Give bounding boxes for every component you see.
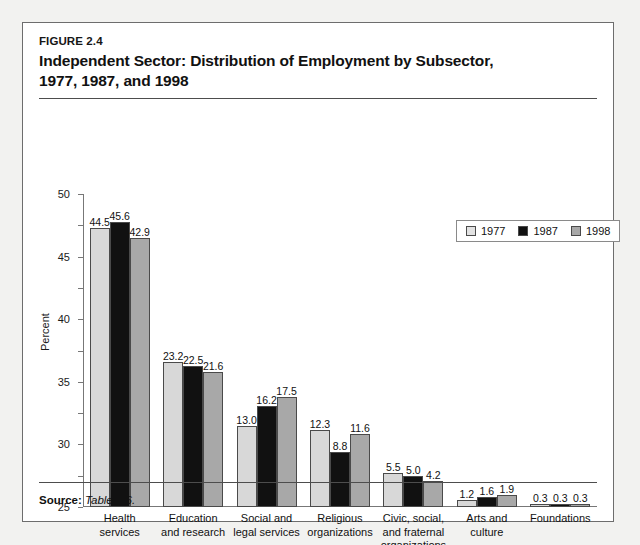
bar[interactable]: 12.3 <box>310 430 330 507</box>
bar-value-label: 11.6 <box>350 422 370 434</box>
legend-label: 1977 <box>481 225 505 237</box>
legend-item[interactable]: 1977 <box>466 225 505 237</box>
bar-group-bars: 44.545.642.9 <box>83 194 156 507</box>
source-label: Source: <box>39 494 82 506</box>
bar-value-label: 16.2 <box>256 394 276 406</box>
legend-label: 1998 <box>586 225 610 237</box>
chart-legend: 197719871998 <box>456 220 620 242</box>
bar-value-label: 44.5 <box>89 216 109 228</box>
bar[interactable]: 42.9 <box>130 238 150 507</box>
bar[interactable]: 5.5 <box>383 473 403 507</box>
y-axis-tick: 0 <box>78 507 83 508</box>
bar[interactable]: 0.3 <box>550 504 570 507</box>
bar[interactable]: 45.6 <box>110 222 130 507</box>
bar[interactable]: 11.6 <box>350 434 370 507</box>
legend-label: 1987 <box>533 225 557 237</box>
bar[interactable]: 0.3 <box>570 504 590 507</box>
bar[interactable]: 5.0 <box>403 476 423 507</box>
bar-value-label: 12.3 <box>310 418 330 430</box>
bar[interactable]: 8.8 <box>330 452 350 507</box>
bar[interactable]: 21.6 <box>203 372 223 507</box>
bar[interactable]: 13.0 <box>237 426 257 507</box>
figure-number: FIGURE 2.4 <box>39 34 597 49</box>
figure-title: Independent Sector: Distribution of Empl… <box>39 51 597 90</box>
bar-value-label: 21.6 <box>203 360 223 372</box>
bar[interactable]: 22.5 <box>183 366 203 507</box>
legend-swatch-icon <box>571 226 581 236</box>
bar-value-label: 5.0 <box>406 464 421 476</box>
bar[interactable]: 1.9 <box>497 495 517 507</box>
y-axis-title: Percent <box>39 313 51 351</box>
bar-value-label: 45.6 <box>109 210 129 222</box>
x-axis-category-label: Foundations <box>512 512 608 526</box>
bar-value-label: 4.2 <box>426 469 441 481</box>
bar-group-bars: 5.55.04.2 <box>377 194 450 507</box>
bar-value-label: 8.8 <box>333 440 348 452</box>
bar[interactable]: 17.5 <box>277 397 297 507</box>
chart-area: Percent 05101520253035404550 44.545.642.… <box>23 99 615 499</box>
bar-value-label: 17.5 <box>276 385 296 397</box>
bar[interactable]: 44.5 <box>90 228 110 507</box>
bar-value-label: 42.9 <box>129 226 149 238</box>
bar-value-label: 1.2 <box>460 488 475 500</box>
bar-group: 23.222.521.6Education and research <box>156 194 229 507</box>
bar-value-label: 23.2 <box>163 350 183 362</box>
bar-value-label: 5.5 <box>386 461 401 473</box>
bar-value-label: 0.3 <box>533 492 548 504</box>
bar-value-label: 22.5 <box>183 354 203 366</box>
bar[interactable]: 16.2 <box>257 406 277 507</box>
legend-swatch-icon <box>466 226 476 236</box>
bar[interactable]: 1.2 <box>457 500 477 508</box>
bar[interactable]: 1.6 <box>477 497 497 507</box>
y-axis-tick-label: 50 <box>58 188 70 200</box>
bar-group: 44.545.642.9Health services <box>83 194 156 507</box>
bar-group-bars: 12.38.811.6 <box>303 194 376 507</box>
bar-group-bars: 23.222.521.6 <box>156 194 229 507</box>
bar[interactable]: 23.2 <box>163 362 183 507</box>
source-note: Source: Table 2.6. <box>39 494 135 506</box>
figure-header: FIGURE 2.4 Independent Sector: Distribut… <box>23 23 613 90</box>
bar-value-label: 13.0 <box>236 414 256 426</box>
bar-value-label: 1.9 <box>500 483 515 495</box>
bar-group: 5.55.04.2Civic, social, and fraternal or… <box>377 194 450 507</box>
y-axis-tick-label: 35 <box>58 376 70 388</box>
bar-group: 13.016.217.5Social and legal services <box>230 194 303 507</box>
footer-divider <box>39 482 597 483</box>
legend-item[interactable]: 1987 <box>518 225 557 237</box>
bar-value-label: 0.3 <box>573 492 588 504</box>
bar-value-label: 0.3 <box>553 492 568 504</box>
bar-group: 12.38.811.6Religious organizations <box>303 194 376 507</box>
bar[interactable]: 4.2 <box>423 481 443 507</box>
bar[interactable]: 0.3 <box>530 504 550 507</box>
legend-item[interactable]: 1998 <box>571 225 610 237</box>
legend-swatch-icon <box>518 226 528 236</box>
y-axis-tick-label: 40 <box>58 313 70 325</box>
y-axis-tick-label: 30 <box>58 438 70 450</box>
bar-value-label: 1.6 <box>480 485 495 497</box>
y-axis-tick-label: 45 <box>58 251 70 263</box>
bar-group-bars: 13.016.217.5 <box>230 194 303 507</box>
figure-card: FIGURE 2.4 Independent Sector: Distribut… <box>22 22 614 522</box>
source-value: Table 2.6. <box>85 494 135 506</box>
